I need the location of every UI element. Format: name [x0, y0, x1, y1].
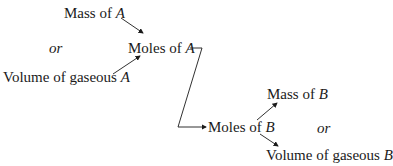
- node-volume-b-text: Volume of gaseous: [266, 147, 384, 163]
- arrow-moles-a-to-moles-b: [178, 48, 206, 127]
- node-mass-a-var: A: [116, 5, 125, 21]
- node-moles-a-var: A: [186, 40, 195, 56]
- node-volume-a-text: Volume of gaseous: [3, 69, 121, 85]
- node-moles-a: Moles of A: [128, 41, 195, 56]
- node-volume-b-var: B: [384, 147, 393, 163]
- node-volume-a: Volume of gaseous A: [3, 70, 130, 85]
- node-mass-b: Mass of B: [267, 87, 328, 102]
- node-mass-a-text: Mass of: [64, 5, 116, 21]
- node-volume-a-var: A: [121, 69, 130, 85]
- node-mass-b-var: B: [319, 86, 328, 102]
- node-mass-a: Mass of A: [64, 6, 125, 21]
- node-moles-b: Moles of B: [208, 120, 275, 135]
- node-moles-a-text: Moles of: [128, 40, 186, 56]
- or-label-a: or: [49, 41, 62, 56]
- arrow-moles-b-to-mass-b: [257, 103, 277, 120]
- node-mass-b-text: Mass of: [267, 86, 319, 102]
- or-label-b: or: [317, 121, 330, 136]
- node-moles-b-text: Moles of: [208, 119, 266, 135]
- arrow-moles-b-to-volume-b: [260, 134, 278, 146]
- node-moles-b-var: B: [266, 119, 275, 135]
- node-volume-b: Volume of gaseous B: [266, 148, 393, 163]
